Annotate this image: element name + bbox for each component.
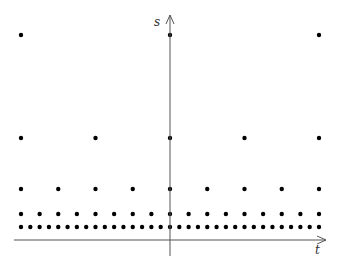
lattice-dot bbox=[233, 225, 237, 229]
lattice-dot bbox=[317, 136, 321, 140]
lattice-dot bbox=[93, 136, 97, 140]
lattice-dot bbox=[93, 225, 97, 229]
lattice-dot bbox=[289, 225, 293, 229]
lattice-dot bbox=[56, 225, 60, 229]
lattice-dot bbox=[280, 212, 284, 216]
lattice-dot bbox=[112, 212, 116, 216]
lattice-dot bbox=[19, 212, 23, 216]
lattice-dot bbox=[196, 225, 200, 229]
lattice-dot bbox=[158, 225, 162, 229]
lattice-dot bbox=[93, 212, 97, 216]
lattice-dot bbox=[317, 225, 321, 229]
lattice-dot bbox=[317, 33, 321, 37]
lattice-dot bbox=[252, 225, 256, 229]
lattice-diagram: t s bbox=[0, 0, 341, 270]
s-axis-label: s bbox=[154, 15, 160, 29]
lattice-dot bbox=[131, 187, 135, 191]
lattice-dot bbox=[28, 225, 32, 229]
lattice-dot bbox=[121, 225, 125, 229]
lattice-dot bbox=[56, 187, 60, 191]
lattice-dot bbox=[65, 225, 69, 229]
lattice-dot bbox=[19, 33, 23, 37]
lattice-dot bbox=[177, 225, 181, 229]
lattice-dot bbox=[242, 136, 246, 140]
lattice-dot bbox=[317, 212, 321, 216]
lattice-dot bbox=[131, 212, 135, 216]
lattice-dot bbox=[280, 187, 284, 191]
lattice-dot bbox=[298, 225, 302, 229]
lattice-dot bbox=[149, 225, 153, 229]
lattice-dot bbox=[186, 225, 190, 229]
lattice-dot bbox=[37, 225, 41, 229]
lattice-dot bbox=[19, 225, 23, 229]
lattice-dot bbox=[37, 212, 41, 216]
lattice-dot bbox=[205, 225, 209, 229]
t-axis-label: t bbox=[315, 243, 320, 257]
lattice-dot bbox=[84, 225, 88, 229]
lattice-dot bbox=[242, 212, 246, 216]
lattice-dot bbox=[205, 212, 209, 216]
lattice-dot bbox=[307, 225, 311, 229]
lattice-dot bbox=[19, 187, 23, 191]
lattice-dot bbox=[56, 212, 60, 216]
lattice-dot bbox=[280, 225, 284, 229]
lattice-dot bbox=[224, 225, 228, 229]
lattice-dot bbox=[103, 225, 107, 229]
lattice-dot bbox=[149, 212, 153, 216]
lattice-dot bbox=[75, 212, 79, 216]
lattice-dot bbox=[242, 187, 246, 191]
lattice-dot bbox=[93, 187, 97, 191]
lattice-dot bbox=[224, 212, 228, 216]
lattice-dot bbox=[261, 212, 265, 216]
lattice-dot bbox=[131, 225, 135, 229]
lattice-dot bbox=[205, 187, 209, 191]
lattice-dot bbox=[270, 225, 274, 229]
lattice-dot bbox=[19, 136, 23, 140]
lattice-dot bbox=[112, 225, 116, 229]
lattice-dot bbox=[298, 212, 302, 216]
lattice-dot bbox=[75, 225, 79, 229]
lattice-dot bbox=[261, 225, 265, 229]
lattice-dot bbox=[47, 225, 51, 229]
lattice-dot bbox=[186, 212, 190, 216]
lattice-dot bbox=[242, 225, 246, 229]
lattice-dot bbox=[214, 225, 218, 229]
lattice-dot bbox=[317, 187, 321, 191]
lattice-dot bbox=[140, 225, 144, 229]
